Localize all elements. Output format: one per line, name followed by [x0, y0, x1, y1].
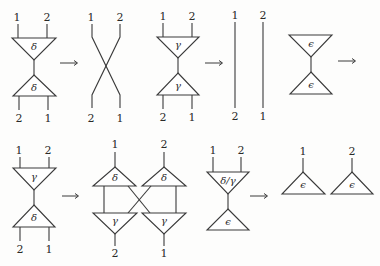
arrow-icon [60, 61, 78, 66]
label: 2 [160, 111, 167, 124]
label: 1 [189, 111, 196, 124]
label: 1 [300, 145, 307, 158]
delta-symbol: δ [31, 212, 37, 223]
epsilon-symbol: ϵ [349, 179, 355, 190]
label: 2 [16, 112, 23, 125]
label: 2 [112, 247, 119, 260]
row2-bialgebra-diagram: 1 2 δ δ γ γ 2 1 [93, 138, 186, 260]
label: 1 [260, 110, 267, 123]
label: 2 [189, 10, 196, 23]
gamma-symbol: γ [112, 215, 118, 226]
label: 1 [161, 247, 168, 260]
row1-delta-delta-diagram: 1 2 δ δ 2 1 [12, 11, 56, 125]
label: 1 [232, 9, 239, 22]
arrow-icon [62, 194, 79, 199]
label: 1 [14, 11, 21, 24]
label: 2 [117, 11, 124, 24]
row1-gamma-gamma-diagram: 1 2 γ γ 2 1 [157, 10, 199, 124]
row1-identity-lines-diagram: 1 2 2 1 [232, 9, 267, 123]
label: 2 [44, 11, 51, 24]
label: 1 [16, 144, 23, 157]
delta-gamma-symbol: δ/γ [220, 175, 235, 186]
label: 2 [238, 144, 245, 157]
delta-symbol: δ [112, 172, 118, 183]
row2-gamma-delta-diagram: 1 2 γ δ 2 1 [13, 144, 56, 256]
label: 1 [210, 144, 217, 157]
epsilon-symbol: ϵ [308, 79, 314, 90]
label: 1 [45, 112, 52, 125]
label: 2 [161, 138, 168, 151]
label: 1 [117, 112, 124, 125]
arrow-icon [250, 194, 268, 199]
row2-delta-gamma-epsilon-diagram: 1 2 δ/γ ϵ [207, 144, 249, 230]
gamma-symbol: γ [175, 39, 181, 50]
arrow-icon [205, 61, 223, 66]
label: 1 [112, 138, 119, 151]
epsilon-symbol: ϵ [225, 216, 231, 227]
row1-epsilon-epsilon-diagram: ϵ ϵ [289, 35, 332, 94]
label: 1 [88, 11, 95, 24]
delta-symbol: δ [31, 82, 37, 93]
gamma-symbol: γ [31, 171, 37, 182]
label: 2 [88, 112, 95, 125]
label: 1 [160, 10, 167, 23]
label: 2 [260, 9, 267, 22]
diagram-canvas: 1 2 δ δ 2 1 1 2 2 1 1 2 γ γ [0, 0, 380, 266]
gamma-symbol: γ [161, 215, 167, 226]
label: 2 [349, 145, 356, 158]
delta-symbol: δ [31, 41, 37, 52]
label: 2 [232, 110, 239, 123]
label: 2 [45, 144, 52, 157]
epsilon-symbol: ϵ [308, 38, 314, 49]
gamma-symbol: γ [175, 80, 181, 91]
epsilon-symbol: ϵ [300, 179, 306, 190]
label: 1 [46, 243, 53, 256]
label: 2 [17, 243, 24, 256]
row1-crossing-diagram: 1 2 2 1 [88, 11, 124, 125]
delta-symbol: δ [161, 172, 167, 183]
arrow-icon [338, 59, 356, 64]
row2-two-epsilon-diagram: 1 2 ϵ ϵ [282, 145, 373, 194]
